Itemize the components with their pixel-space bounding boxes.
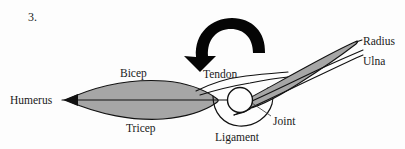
label-radius: Radius [363,35,395,47]
arm-anatomy-diagram: 3. Humerus Bicep Tricep Tendon Ligament … [0,0,405,149]
label-ligament: Ligament [215,131,260,144]
ulna-bone-upper-line [236,50,363,108]
label-humerus: Humerus [10,94,53,106]
label-bicep: Bicep [120,67,147,80]
label-joint: Joint [273,115,296,127]
item-number: 3. [28,10,37,24]
label-ulna: Ulna [363,55,385,67]
figure-page: 3. Humerus Bicep Tricep Tendon Ligament … [0,0,405,149]
label-tendon: Tendon [203,68,238,80]
joint-leader-line [252,103,271,116]
ulna-bone-lower-line [234,55,363,115]
label-tricep: Tricep [126,122,156,135]
rotation-arrow-icon [184,18,265,72]
joint-circle-icon [228,88,253,113]
